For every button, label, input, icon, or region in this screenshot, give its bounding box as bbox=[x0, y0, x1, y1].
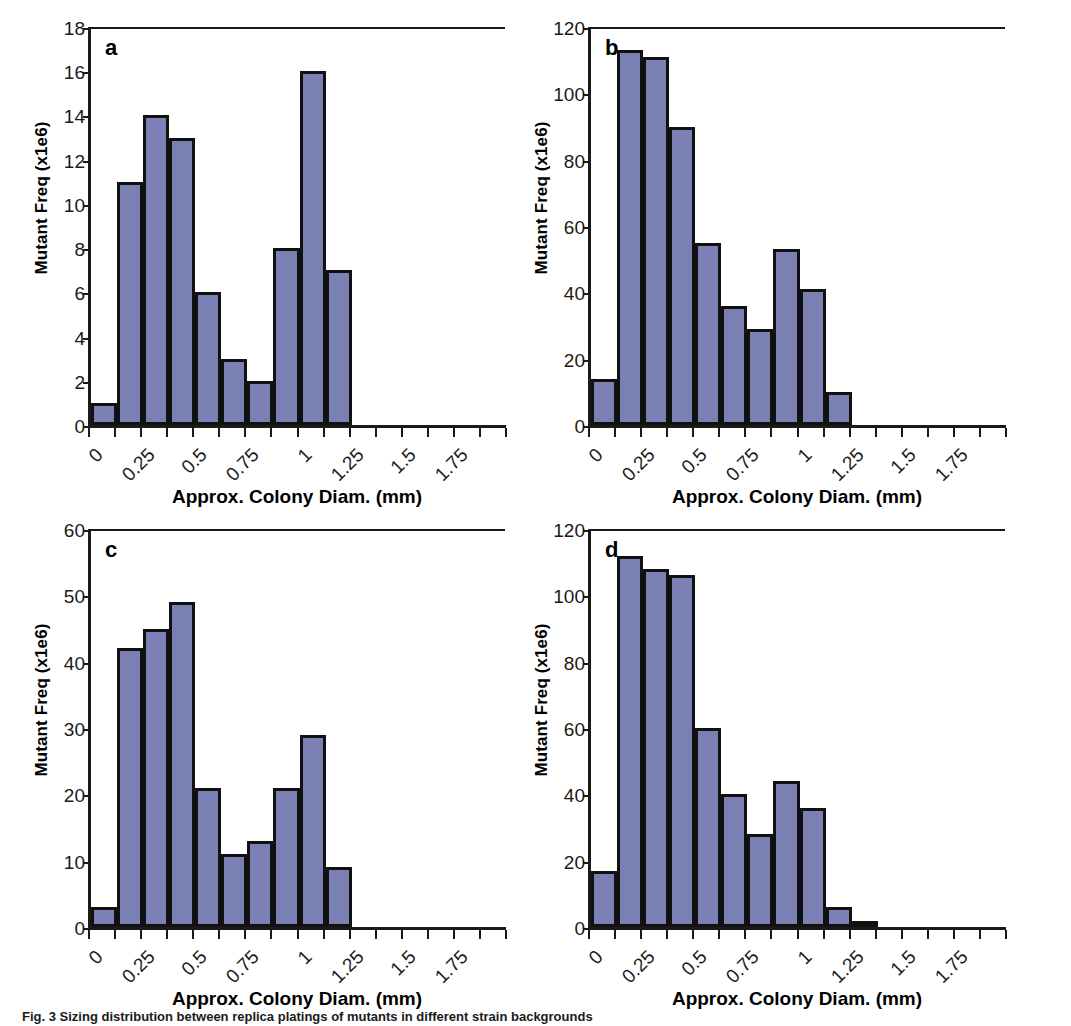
x-tick-mark bbox=[270, 930, 272, 939]
x-tick-mark bbox=[797, 930, 799, 939]
y-tick-label: 10 bbox=[64, 852, 85, 874]
y-tick-mark bbox=[83, 596, 91, 598]
x-tick-label: 1.75 bbox=[931, 946, 973, 988]
x-tick-label: 0.25 bbox=[118, 946, 160, 988]
x-tick-mark bbox=[218, 428, 220, 437]
y-tick-label: 80 bbox=[564, 653, 585, 675]
x-tick-mark bbox=[692, 428, 694, 437]
x-tick-mark bbox=[953, 428, 955, 437]
y-tick-label: 14 bbox=[64, 106, 85, 128]
y-tick-label: 50 bbox=[64, 586, 85, 608]
histogram-bar bbox=[117, 182, 143, 425]
histogram-bar bbox=[669, 127, 695, 426]
x-tick-mark bbox=[375, 428, 377, 437]
y-tick-mark bbox=[583, 795, 591, 797]
x-tick-label: 0.25 bbox=[118, 444, 160, 486]
y-tick-mark bbox=[583, 293, 591, 295]
x-tick-mark bbox=[927, 930, 929, 939]
panel-b: Mutant Freq (x1e6) b 020406080100120 00.… bbox=[500, 8, 1020, 508]
panel-b-bars bbox=[591, 29, 1005, 425]
x-tick-label: 0.75 bbox=[722, 946, 764, 988]
panel-a: Mutant Freq (x1e6) a 024681012141618 00.… bbox=[0, 8, 520, 508]
y-tick-label: 40 bbox=[564, 283, 585, 305]
x-tick-label: 1.5 bbox=[386, 946, 420, 980]
panel-a-plot-area: a 024681012141618 bbox=[88, 27, 505, 425]
panel-d: Mutant Freq (x1e6) d 020406080100120 00.… bbox=[500, 510, 1020, 1010]
x-tick-label: 1 bbox=[293, 946, 316, 969]
y-tick-label: 20 bbox=[564, 350, 585, 372]
x-tick-mark bbox=[453, 930, 455, 939]
x-tick-mark bbox=[192, 428, 194, 437]
figure-histogram-grid: Mutant Freq (x1e6) a 024681012141618 00.… bbox=[0, 0, 1071, 1026]
histogram-bar bbox=[826, 907, 852, 927]
x-tick-label: 0.5 bbox=[678, 946, 712, 980]
x-tick-mark bbox=[427, 428, 429, 437]
x-tick-mark bbox=[588, 930, 590, 939]
x-tick-label: 1.25 bbox=[826, 946, 868, 988]
x-tick-label: 1.5 bbox=[386, 444, 420, 478]
histogram-bar bbox=[91, 403, 117, 425]
y-tick-label: 100 bbox=[553, 586, 585, 608]
x-tick-mark bbox=[453, 428, 455, 437]
x-tick-mark bbox=[614, 930, 616, 939]
x-tick-mark bbox=[140, 930, 142, 939]
x-tick-label: 0.75 bbox=[722, 444, 764, 486]
y-tick-mark bbox=[83, 161, 91, 163]
y-tick-label: 30 bbox=[64, 719, 85, 741]
x-tick-label: 0.5 bbox=[178, 444, 212, 478]
x-tick-mark bbox=[192, 930, 194, 939]
histogram-bar bbox=[695, 728, 721, 927]
histogram-bar bbox=[721, 794, 747, 927]
panel-b-plot-area: b 020406080100120 bbox=[588, 27, 1005, 425]
y-tick-mark bbox=[83, 338, 91, 340]
histogram-bar bbox=[300, 71, 326, 425]
histogram-bar bbox=[747, 329, 773, 425]
y-tick-mark bbox=[583, 663, 591, 665]
y-tick-mark bbox=[83, 795, 91, 797]
x-tick-mark bbox=[901, 428, 903, 437]
x-tick-label: 0.25 bbox=[618, 444, 660, 486]
histogram-bar bbox=[326, 867, 352, 927]
y-tick-label: 60 bbox=[564, 719, 585, 741]
x-tick-label: 1.25 bbox=[826, 444, 868, 486]
y-tick-mark bbox=[83, 72, 91, 74]
x-tick-label: 0.5 bbox=[678, 444, 712, 478]
x-tick-mark bbox=[614, 428, 616, 437]
x-tick-mark bbox=[979, 930, 981, 939]
x-tick-mark bbox=[823, 428, 825, 437]
histogram-bar bbox=[300, 735, 326, 927]
panel-a-y-axis-title: Mutant Freq (x1e6) bbox=[32, 68, 52, 328]
panel-c-x-axis-title: Approx. Colony Diam. (mm) bbox=[88, 988, 506, 1010]
x-tick-mark bbox=[349, 930, 351, 939]
x-tick-mark bbox=[218, 930, 220, 939]
y-tick-label: 80 bbox=[564, 151, 585, 173]
histogram-bar bbox=[695, 243, 721, 425]
y-tick-label: 120 bbox=[553, 18, 585, 40]
histogram-bar bbox=[800, 808, 826, 927]
y-tick-mark bbox=[83, 862, 91, 864]
x-tick-label: 1.75 bbox=[431, 444, 473, 486]
y-tick-mark bbox=[83, 663, 91, 665]
y-tick-mark bbox=[583, 227, 591, 229]
x-tick-mark bbox=[297, 428, 299, 437]
histogram-bar bbox=[643, 569, 669, 927]
y-tick-label: 120 bbox=[553, 520, 585, 542]
x-tick-label: 1.75 bbox=[431, 946, 473, 988]
y-tick-label: 18 bbox=[64, 18, 85, 40]
histogram-bar bbox=[247, 841, 273, 927]
x-tick-mark bbox=[953, 930, 955, 939]
x-tick-mark bbox=[823, 930, 825, 939]
panel-a-x-axis: 00.250.50.7511.251.51.75 bbox=[88, 425, 506, 428]
y-tick-mark bbox=[83, 382, 91, 384]
panel-d-inner: Mutant Freq (x1e6) d 020406080100120 00.… bbox=[500, 510, 1020, 1010]
histogram-bar bbox=[143, 629, 169, 928]
panel-b-x-axis-title: Approx. Colony Diam. (mm) bbox=[588, 486, 1006, 508]
histogram-bar bbox=[169, 602, 195, 927]
x-tick-label: 0 bbox=[85, 444, 108, 467]
x-tick-mark bbox=[588, 428, 590, 437]
x-tick-label: 0 bbox=[585, 444, 608, 467]
x-tick-mark bbox=[927, 428, 929, 437]
x-tick-mark bbox=[875, 428, 877, 437]
histogram-bar bbox=[169, 138, 195, 425]
y-tick-mark bbox=[583, 530, 591, 532]
